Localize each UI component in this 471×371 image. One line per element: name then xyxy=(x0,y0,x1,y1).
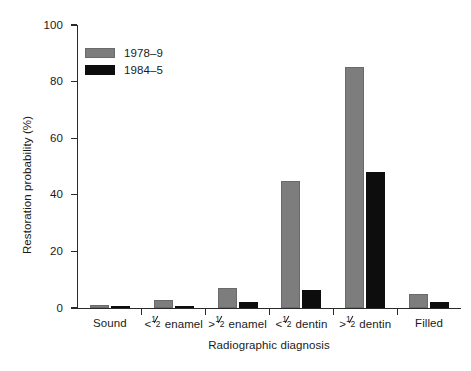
y-axis-tick xyxy=(71,81,77,82)
fraction-glyph: 12 xyxy=(151,316,161,328)
chart-legend: 1978–91984–5 xyxy=(85,45,163,79)
y-axis-tick-label: 20 xyxy=(3,246,63,257)
x-axis-tick xyxy=(269,309,270,315)
fraction-glyph: 12 xyxy=(282,316,292,328)
bar-3-series-1 xyxy=(302,290,321,308)
legend-item: 1978–9 xyxy=(85,45,163,60)
legend-label: 1984–5 xyxy=(124,64,163,76)
x-axis-tick-label: >12 enamel xyxy=(206,316,270,331)
x-axis-tick-label: Filled xyxy=(397,316,461,330)
y-axis-tick xyxy=(71,24,77,25)
fraction-glyph: 12 xyxy=(215,316,225,328)
x-axis-tick xyxy=(141,309,142,315)
y-axis-tick-label: 0 xyxy=(3,303,63,314)
bar-chart-figure: Restoration probability (%) 020406080100… xyxy=(0,0,471,371)
bar-3-series-0 xyxy=(281,181,300,308)
bar-4-series-0 xyxy=(345,67,364,308)
y-axis-tick xyxy=(71,251,77,252)
legend-swatch xyxy=(85,48,115,58)
legend-item: 1984–5 xyxy=(85,62,163,77)
y-axis-tick-label: 80 xyxy=(3,76,63,87)
bar-2-series-0 xyxy=(218,288,237,308)
legend-swatch xyxy=(85,65,115,75)
x-axis-tick xyxy=(205,309,206,315)
x-axis-title: Radiographic diagnosis xyxy=(77,339,461,351)
x-axis-tick xyxy=(397,309,398,315)
fraction-glyph: 12 xyxy=(346,316,356,328)
x-axis-tick-label: Sound xyxy=(78,316,142,330)
y-axis-tick-label: 40 xyxy=(3,189,63,200)
x-axis-tick-label: >12 dentin xyxy=(333,316,397,331)
y-axis-tick xyxy=(71,138,77,139)
x-axis-tick-label: <12 enamel xyxy=(142,316,206,331)
bar-4-series-1 xyxy=(366,172,385,308)
y-axis-tick-label: 60 xyxy=(3,133,63,144)
y-axis-tick-label: 100 xyxy=(3,20,63,31)
x-axis-tick-label: <12 dentin xyxy=(270,316,334,331)
legend-label: 1978–9 xyxy=(124,47,163,59)
y-axis-tick xyxy=(71,194,77,195)
bar-5-series-0 xyxy=(409,294,428,308)
x-axis-tick xyxy=(333,309,334,315)
